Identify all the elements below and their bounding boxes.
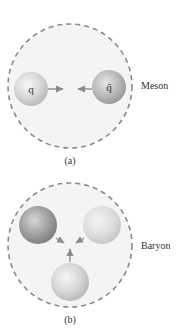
- quark-label: q: [28, 83, 34, 95]
- meson-label: Meson: [141, 80, 168, 91]
- quark-sphere: [19, 206, 57, 244]
- meson-panel: q q̄ Meson (a): [8, 24, 168, 167]
- hadron-diagram: q q̄ Meson (a) Baryon (b): [0, 0, 184, 336]
- quark-sphere: [83, 206, 121, 244]
- antiquark-label: q̄: [106, 81, 112, 93]
- quark-sphere: [51, 263, 89, 301]
- panel-caption-a: (a): [64, 155, 75, 167]
- panel-caption-b: (b): [64, 314, 76, 326]
- baryon-panel: Baryon (b): [8, 183, 170, 326]
- baryon-label: Baryon: [141, 240, 170, 251]
